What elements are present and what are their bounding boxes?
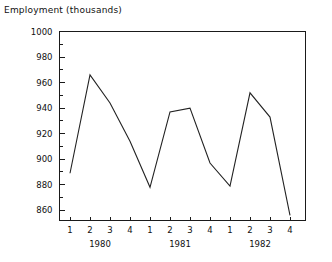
axis-frame <box>60 32 306 221</box>
y-tick-label: 940 <box>36 103 52 113</box>
data-series-line <box>70 75 290 215</box>
y-tick-label: 920 <box>36 129 52 139</box>
x-tick-label: 4 <box>207 225 212 235</box>
y-tick-label: 1000 <box>31 27 53 37</box>
y-tick-label: 880 <box>36 180 52 190</box>
x-tick-label: 2 <box>247 225 252 235</box>
x-tick-label: 4 <box>287 225 292 235</box>
x-tick-label: 2 <box>87 225 92 235</box>
employment-line-chart: Employment (thousands) 10009809609409209… <box>0 0 332 262</box>
x-tick-label: 3 <box>187 225 192 235</box>
chart-plot-area: 1000980960940920900880860123412341234198… <box>0 0 332 262</box>
x-tick-label: 3 <box>107 225 112 235</box>
x-group-label: 1981 <box>169 239 191 249</box>
x-tick-label: 3 <box>267 225 272 235</box>
x-tick-label: 4 <box>127 225 132 235</box>
x-group-label: 1982 <box>249 239 271 249</box>
y-tick-label: 980 <box>36 52 52 62</box>
x-tick-label: 1 <box>227 225 232 235</box>
x-tick-label: 1 <box>67 225 72 235</box>
x-tick-label: 2 <box>167 225 172 235</box>
x-tick-label: 1 <box>147 225 152 235</box>
y-tick-label: 900 <box>36 154 52 164</box>
y-tick-label: 960 <box>36 78 52 88</box>
x-group-label: 1980 <box>89 239 111 249</box>
y-tick-label: 860 <box>36 205 52 215</box>
